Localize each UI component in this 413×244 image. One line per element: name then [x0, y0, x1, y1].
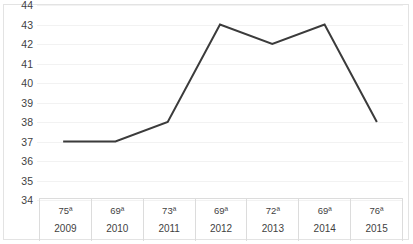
y-axis-tick-label: 35 [21, 175, 33, 186]
chart-frame: 4443424140393837363534 75ª200969ª201073ª… [3, 4, 409, 240]
y-axis: 4443424140393837363534 [4, 5, 36, 200]
x-axis-year-label: 2013 [262, 224, 284, 234]
y-axis-tick-label: 43 [21, 19, 33, 30]
x-axis-rank-label: 69ª [214, 206, 228, 216]
x-axis-rank-label: 69ª [110, 206, 124, 216]
x-axis-year-label: 2011 [158, 224, 180, 234]
x-axis-year-label: 2015 [365, 224, 387, 234]
chart-root: 4443424140393837363534 75ª200969ª201073ª… [0, 0, 413, 244]
x-axis-rank-label: 69ª [318, 206, 332, 216]
line-series-path [63, 25, 377, 142]
y-axis-tick-label: 41 [21, 58, 33, 69]
y-axis-tick-label: 44 [21, 0, 33, 10]
y-axis-tick-label: 42 [21, 39, 33, 50]
x-axis-label-cell: 69ª2012 [196, 199, 248, 241]
y-axis-tick-label: 36 [21, 156, 33, 167]
x-axis-label-table: 75ª200969ª201073ª201169ª201272ª201369ª20… [39, 198, 403, 241]
x-axis-year-label: 2012 [210, 224, 232, 234]
x-axis-label-cell: 73ª2011 [144, 199, 196, 241]
x-axis-year-label: 2009 [54, 224, 76, 234]
x-axis-rank-label: 76ª [370, 206, 384, 216]
x-axis-year-label: 2010 [106, 224, 128, 234]
x-axis-rank-label: 75ª [58, 206, 72, 216]
x-axis-label-cell: 69ª2010 [92, 199, 144, 241]
y-axis-tick-label: 37 [21, 136, 33, 147]
x-axis-label-cell: 69ª2014 [299, 199, 351, 241]
y-axis-tick-label: 40 [21, 78, 33, 89]
x-axis-rank-label: 73ª [162, 206, 176, 216]
x-axis-year-label: 2014 [314, 224, 336, 234]
line-series-svg [37, 5, 403, 200]
x-axis-label-cell: 72ª2013 [247, 199, 299, 241]
y-axis-tick-label: 39 [21, 97, 33, 108]
x-axis-label-cell: 76ª2015 [351, 199, 403, 241]
x-axis-label-cell: 75ª2009 [40, 199, 92, 241]
y-axis-tick-label: 38 [21, 117, 33, 128]
y-axis-tick-label: 34 [21, 195, 33, 206]
x-axis-rank-label: 72ª [266, 206, 280, 216]
